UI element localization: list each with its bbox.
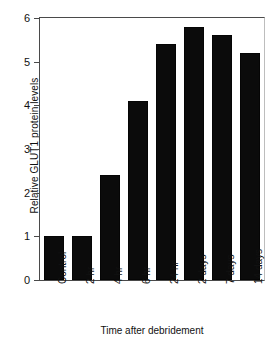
y-axis-tick: 6 (34, 18, 40, 19)
y-axis-tick-label: 2 (24, 186, 30, 201)
x-axis-tick-label: 14 days (253, 249, 264, 284)
y-axis-tick-label: 1 (24, 229, 30, 244)
y-axis-tick-label: 0 (24, 273, 30, 288)
y-axis-tick-label: 6 (24, 11, 30, 26)
x-axis-tick-label: Control (57, 252, 68, 284)
x-axis-tick-label: 7 days (225, 255, 236, 284)
y-axis-tick-label: 3 (24, 142, 30, 157)
chart-figure: Relative GLUT1 protein levels 0123456 Ti… (0, 0, 279, 349)
bar (156, 44, 176, 280)
x-axis-tick-label: 24 hr (169, 261, 180, 284)
y-axis-tick: 1 (34, 236, 40, 237)
x-axis-title: Time after debridement (39, 325, 265, 336)
y-axis-tick-label: 5 (24, 55, 30, 70)
y-axis-tick: 2 (34, 193, 40, 194)
x-axis-tick-label: 4 hr (113, 267, 124, 284)
x-axis-tick-label: 2 days (197, 255, 208, 284)
x-axis-tick-label: 2 hr (85, 267, 96, 284)
bar (184, 27, 204, 280)
x-axis-tick-label: 6 hr (141, 267, 152, 284)
y-axis-tick: 4 (34, 105, 40, 106)
bar (100, 175, 120, 280)
y-axis-tick: 3 (34, 149, 40, 150)
plot-area: 0123456 (39, 17, 265, 281)
y-axis-tick: 0 (34, 280, 40, 281)
y-axis-tick-label: 4 (24, 98, 30, 113)
bar (212, 35, 232, 280)
bar (240, 53, 260, 280)
y-axis-tick: 5 (34, 62, 40, 63)
bar (128, 101, 148, 280)
